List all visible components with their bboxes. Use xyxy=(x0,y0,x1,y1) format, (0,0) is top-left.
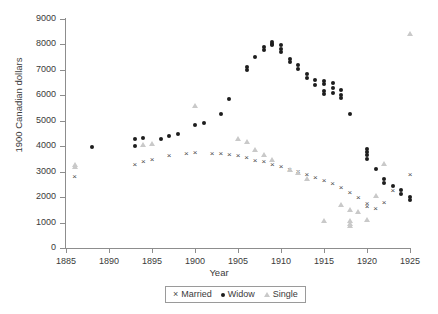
x-axis-tick xyxy=(152,249,153,253)
data-point-married xyxy=(192,149,199,156)
data-point-single xyxy=(244,139,250,145)
data-point-widow xyxy=(227,97,231,101)
chart-legend: × Married Widow Single xyxy=(165,286,306,303)
data-point-widow xyxy=(167,134,171,138)
data-point-widow xyxy=(408,198,412,202)
data-point-married xyxy=(209,150,216,157)
data-point-married xyxy=(355,194,362,201)
data-point-widow xyxy=(245,68,249,72)
data-point-married xyxy=(131,161,138,168)
y-axis-tick-label: 4000 xyxy=(22,141,56,150)
data-point-widow xyxy=(219,112,223,116)
x-axis-tick-label: 1890 xyxy=(89,256,129,266)
legend-item-single: Single xyxy=(264,289,298,300)
data-point-single xyxy=(304,176,310,182)
data-point-married xyxy=(329,180,336,187)
legend-label-married: Married xyxy=(181,289,212,300)
x-marker-icon: × xyxy=(173,289,178,300)
data-point-single xyxy=(72,162,78,168)
x-axis-tick xyxy=(367,249,368,253)
y-axis-tick-label: 7000 xyxy=(22,65,56,74)
data-point-widow xyxy=(141,136,145,140)
data-point-single xyxy=(347,207,353,213)
data-point-married xyxy=(149,156,156,163)
data-point-widow xyxy=(331,91,335,95)
data-point-married xyxy=(381,199,388,206)
y-axis-tick-label: 0 xyxy=(22,243,56,252)
data-point-widow xyxy=(90,145,94,149)
x-axis-tick xyxy=(109,249,110,253)
scatter-chart-figure: 1900 Canadian dollars Year × Married Wid… xyxy=(0,0,438,314)
x-axis-tick xyxy=(66,249,67,253)
data-point-widow xyxy=(313,78,317,82)
y-axis-tick xyxy=(60,95,65,96)
legend-label-widow: Widow xyxy=(228,289,255,300)
data-point-married xyxy=(226,151,233,158)
data-point-married xyxy=(140,158,147,165)
data-point-single xyxy=(140,142,146,148)
legend-item-married: × Married xyxy=(173,289,212,300)
data-point-single xyxy=(355,209,361,215)
data-point-single xyxy=(407,31,413,37)
data-point-single xyxy=(269,157,275,163)
data-point-widow xyxy=(305,76,309,80)
data-point-single xyxy=(287,167,293,173)
x-axis-tick xyxy=(195,249,196,253)
x-axis-tick-label: 1915 xyxy=(304,256,344,266)
data-point-single xyxy=(338,202,344,208)
y-axis-title: 1900 Canadian dollars xyxy=(14,30,24,180)
data-point-married xyxy=(312,174,319,181)
data-point-single xyxy=(364,217,370,223)
x-axis-tick-label: 1920 xyxy=(347,256,387,266)
y-axis-tick-label: 9000 xyxy=(22,14,56,23)
y-axis-line xyxy=(65,18,66,249)
data-point-widow xyxy=(296,67,300,71)
data-point-married xyxy=(243,154,250,161)
x-axis-tick-label: 1885 xyxy=(46,256,86,266)
data-point-single xyxy=(295,170,301,176)
data-point-widow xyxy=(374,167,378,171)
data-point-widow xyxy=(399,192,403,196)
data-point-married xyxy=(166,152,173,159)
legend-item-widow: Widow xyxy=(221,289,255,300)
data-point-widow xyxy=(270,43,274,47)
y-axis-tick xyxy=(60,70,65,71)
x-axis-tick-label: 1910 xyxy=(261,256,301,266)
x-axis-tick xyxy=(324,249,325,253)
data-point-widow xyxy=(322,92,326,96)
y-axis-tick-label: 5000 xyxy=(22,116,56,125)
y-axis-tick-label: 6000 xyxy=(22,90,56,99)
data-point-single xyxy=(381,161,387,167)
y-axis-tick xyxy=(60,248,65,249)
data-point-single xyxy=(261,152,267,158)
y-axis-tick xyxy=(60,19,65,20)
data-point-widow xyxy=(313,83,317,87)
x-axis-tick-label: 1905 xyxy=(218,256,258,266)
y-axis-tick xyxy=(60,121,65,122)
data-point-married xyxy=(278,163,285,170)
data-point-single xyxy=(347,223,353,229)
x-axis-tick xyxy=(410,249,411,253)
data-point-widow xyxy=(159,137,163,141)
y-axis-tick-label: 8000 xyxy=(22,39,56,48)
data-point-married xyxy=(260,158,267,165)
data-point-widow xyxy=(253,55,257,59)
data-point-single xyxy=(192,103,198,109)
data-point-widow xyxy=(348,112,352,116)
data-point-married xyxy=(338,184,345,191)
data-point-widow xyxy=(279,50,283,54)
data-point-widow xyxy=(202,121,206,125)
data-point-married xyxy=(364,203,371,210)
data-point-married xyxy=(372,205,379,212)
data-point-married xyxy=(183,150,190,157)
x-axis-title: Year xyxy=(0,268,438,278)
data-point-single xyxy=(373,193,379,199)
data-point-single xyxy=(252,147,258,153)
x-axis-tick xyxy=(238,249,239,253)
data-point-single xyxy=(149,141,155,147)
y-axis-tick xyxy=(60,172,65,173)
data-point-widow xyxy=(331,81,335,85)
x-axis-tick-label: 1900 xyxy=(175,256,215,266)
data-point-married xyxy=(217,150,224,157)
y-axis-tick-label: 1000 xyxy=(22,218,56,227)
